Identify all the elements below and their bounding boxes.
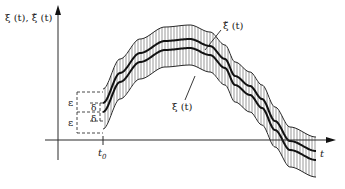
nominal-leader-line [185, 76, 195, 100]
stability-diagram: ξ (t), ξ̃ (t) t t0 ξ̃ (t) ξ (t) ε ε δ δ [0, 0, 345, 189]
t0-label: t0 [98, 147, 107, 161]
epsilon-tube-band [105, 25, 315, 177]
x-axis-arrow-icon [326, 137, 336, 143]
tolerance-brackets [77, 92, 103, 133]
delta-lower-label: δ [91, 114, 96, 124]
perturbed-curve-label: ξ̃ (t) [223, 20, 244, 31]
y-axis-arrow-icon [55, 5, 61, 15]
delta-upper-label: δ [91, 103, 96, 113]
epsilon-upper-label: ε [68, 97, 73, 108]
nominal-curve-label: ξ (t) [172, 101, 193, 112]
x-axis-label: t [320, 148, 325, 159]
y-axis-label: ξ (t), ξ̃ (t) [5, 12, 52, 23]
nominal-trajectory-curve [103, 48, 316, 160]
epsilon-lower-label: ε [68, 117, 73, 128]
